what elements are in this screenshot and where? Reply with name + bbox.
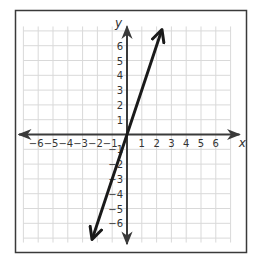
x-tick-label: 5: [198, 138, 204, 149]
x-axis-label: x: [238, 136, 247, 150]
graph-frame: [16, 11, 247, 253]
x-tick-label: −3: [73, 138, 88, 149]
y-tick-label: 6: [117, 41, 123, 52]
x-tick-label: −2: [88, 138, 103, 149]
x-tick-label: −6: [29, 138, 44, 149]
y-tick-label: 2: [117, 100, 123, 111]
y-axis-label: y: [114, 16, 123, 30]
coordinate-plane: −6−5−4−3−2−1123456 654321−1−2−3−4−5−6 x …: [0, 0, 255, 260]
x-tick-label: 1: [139, 138, 145, 149]
x-tick-label: −4: [58, 138, 73, 149]
y-tick-label: −5: [108, 204, 123, 215]
y-tick-label: 1: [117, 115, 123, 126]
y-tick-label: −4: [108, 189, 123, 200]
x-tick-label: 3: [168, 138, 174, 149]
y-tick-label: 5: [117, 56, 123, 67]
y-tick-label: 4: [117, 70, 123, 81]
y-tick-label: 3: [117, 85, 123, 96]
x-tick-label: 6: [213, 138, 219, 149]
x-tick-label: 4: [183, 138, 189, 149]
x-tick-label: 2: [153, 138, 159, 149]
y-tick-label: −6: [108, 218, 123, 229]
x-tick-label: −5: [44, 138, 59, 149]
